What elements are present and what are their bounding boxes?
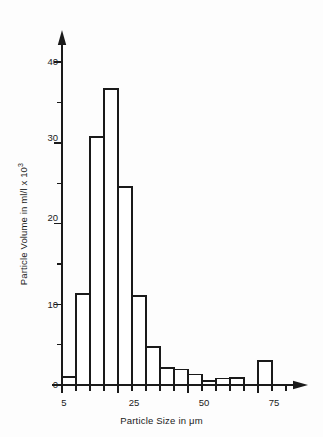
- bar-45-50: [174, 370, 188, 385]
- y-axis-arrowhead: [58, 30, 66, 45]
- bar-60-65: [216, 379, 230, 385]
- bar-5-10: [62, 377, 76, 385]
- bar-30-35: [132, 296, 146, 385]
- bars-layer: [62, 89, 272, 385]
- bar-10-15: [76, 294, 90, 385]
- bar-25-30: [118, 187, 132, 385]
- bar-65-70: [230, 378, 244, 385]
- bar-75-80: [258, 361, 272, 385]
- bar-50-55: [188, 375, 202, 385]
- chart-figure: Particle Volume in ml/l x 103 Particle S…: [0, 0, 323, 437]
- bar-15-20: [90, 137, 104, 385]
- bar-40-45: [160, 368, 174, 385]
- bar-35-40: [146, 347, 160, 385]
- chart-plot-area: [0, 0, 323, 437]
- bar-20-25: [104, 89, 118, 385]
- x-axis-arrowhead: [293, 381, 308, 389]
